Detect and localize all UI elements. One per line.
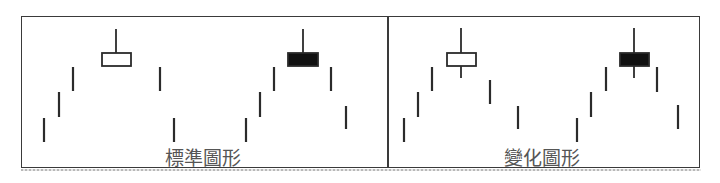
panel-standard — [44, 29, 346, 142]
white-candle-body — [102, 53, 131, 66]
panel-variant — [404, 28, 678, 142]
panel-label-variant: 變化圖形 — [504, 143, 580, 170]
white-candle-body — [447, 53, 476, 66]
black-candle-body — [288, 53, 318, 66]
candlestick-chart — [0, 0, 720, 183]
black-candle-body — [620, 53, 649, 66]
panel-label-standard: 標準圖形 — [165, 143, 241, 170]
